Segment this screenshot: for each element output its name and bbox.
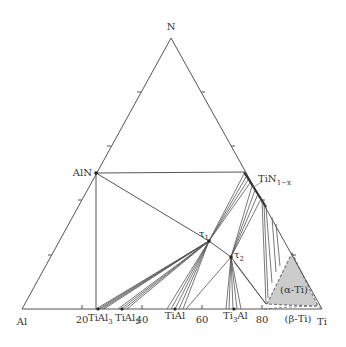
label-alpha-ti: (α-Ti) [280,284,308,295]
label-tin: TiN1−x [258,173,291,187]
tick-label-80: 80 [256,314,269,325]
tie-lines-tin-alpha [234,201,280,304]
tie-lines-tau1-tial [167,241,209,309]
point-tial2 [120,307,123,310]
vertex-label-n: N [167,21,176,32]
phase-boundaries [96,172,266,309]
tie-lines-tau2-tin [231,186,261,257]
point-ti3al [232,307,235,310]
phase-points [94,171,235,310]
label-aln: AlN [72,167,92,178]
label-tau1: τ1 [199,228,209,242]
point-tial3 [96,307,99,310]
label-tial: TiAl [165,310,185,321]
vertex-label-ti: Ti [317,316,327,327]
tick-label-20: 20 [76,314,89,325]
point-aln [94,171,98,175]
label-tau2: τ2 [234,249,244,263]
label-ti3al: Ti3Al [223,310,248,324]
label-beta-ti: (β-Ti) [285,313,312,324]
alpha-ti-region [267,253,318,306]
label-tin-sub: 1−x [277,179,291,187]
label-tial3: TiAl3 [88,312,113,326]
vertex-label-al: Al [16,316,27,327]
point-tau2 [229,255,233,259]
tie-lines-tau1-tin [209,174,250,241]
ternary-phase-diagram: N Al Ti AlN TiN1−x τ1 τ2 (α-Ti) (β-Ti) 2… [0,0,346,347]
tick-label-60: 60 [196,314,209,325]
label-tin-base: TiN [258,173,277,184]
